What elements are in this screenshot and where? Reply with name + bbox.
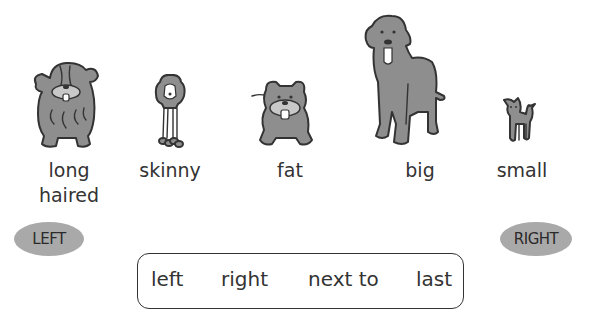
big-label-text: big [385, 158, 455, 183]
small-label-text: small [487, 158, 557, 183]
long-haired-label: long haired [34, 158, 104, 208]
skinny-label-text: skinny [135, 158, 205, 183]
word-right: right [221, 267, 268, 291]
fat-label: fat [255, 158, 325, 183]
small-dog-image [502, 96, 538, 146]
word-bank-box: left right next to last [137, 253, 464, 309]
long-haired-dog-image [30, 58, 102, 150]
small-label: small [487, 158, 557, 183]
long-haired-label-line2: haired [34, 183, 104, 208]
long-haired-label-line1: long [34, 158, 104, 183]
right-direction-bubble: RIGHT [500, 222, 572, 256]
fat-dog-image [248, 78, 320, 150]
word-next-to: next to [308, 267, 379, 291]
skinny-label: skinny [135, 158, 205, 183]
right-direction-text: RIGHT [514, 230, 558, 248]
word-last: last [416, 267, 452, 291]
fat-label-text: fat [255, 158, 325, 183]
big-dog-image [362, 12, 446, 148]
left-direction-text: LEFT [32, 230, 65, 248]
word-left: left [151, 267, 183, 291]
skinny-dog-image [152, 74, 188, 150]
big-label: big [385, 158, 455, 183]
left-direction-bubble: LEFT [14, 222, 84, 256]
